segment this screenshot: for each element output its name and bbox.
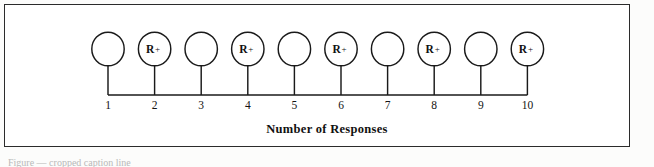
cropped-caption-text: Figure — cropped caption line: [8, 158, 408, 167]
x-tick-label: 6: [321, 99, 361, 112]
x-tick-label: 2: [135, 99, 175, 112]
x-tick-label: 3: [181, 99, 221, 112]
figure-root: R+R+R+R+R+ 12345678910 Number of Respons…: [0, 0, 654, 167]
x-tick-label: 8: [414, 99, 454, 112]
x-tick-label: 1: [88, 99, 128, 112]
x-axis-title: Number of Responses: [0, 122, 654, 137]
x-tick-label: 9: [461, 99, 501, 112]
cropped-caption-strip: Figure — cropped caption line: [8, 158, 408, 167]
x-tick-label: 10: [507, 99, 547, 112]
x-tick-label: 5: [274, 99, 314, 112]
x-tick-label: 7: [368, 99, 408, 112]
x-tick-label: 4: [228, 99, 268, 112]
